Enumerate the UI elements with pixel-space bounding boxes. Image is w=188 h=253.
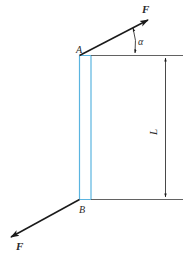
point-b-label: B	[79, 204, 85, 215]
beam	[80, 56, 92, 200]
point-a-label: A	[75, 44, 83, 55]
force-bottom-label: F	[15, 240, 24, 252]
beam-force-diagram: L F α A B F	[0, 0, 188, 253]
force-top-label: F	[141, 3, 150, 15]
length-label: L	[147, 129, 159, 136]
angle-arc	[133, 28, 136, 53]
angle-label: α	[138, 36, 144, 47]
force-bottom-arrow	[11, 200, 80, 238]
